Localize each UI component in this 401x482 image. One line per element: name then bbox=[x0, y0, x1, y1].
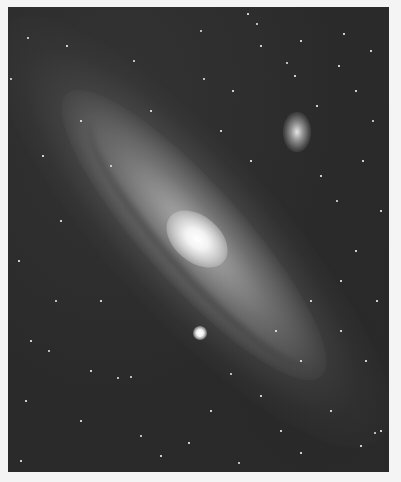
star bbox=[310, 300, 312, 302]
star bbox=[260, 395, 262, 397]
star bbox=[100, 300, 102, 302]
star bbox=[256, 23, 258, 25]
star bbox=[374, 432, 376, 434]
galaxy-photo bbox=[8, 7, 389, 472]
star bbox=[66, 45, 68, 47]
star bbox=[18, 260, 20, 262]
star bbox=[20, 460, 22, 462]
star bbox=[316, 105, 318, 107]
companion-galaxy-lower bbox=[193, 326, 207, 340]
star bbox=[48, 350, 50, 352]
star bbox=[203, 78, 205, 80]
star bbox=[117, 377, 119, 379]
star bbox=[300, 452, 302, 454]
star bbox=[230, 373, 232, 375]
star bbox=[372, 120, 374, 122]
star bbox=[80, 120, 82, 122]
star bbox=[343, 33, 345, 35]
star bbox=[238, 462, 240, 464]
star bbox=[90, 370, 92, 372]
star bbox=[380, 210, 382, 212]
companion-galaxy-upper bbox=[283, 112, 311, 152]
star bbox=[360, 445, 362, 447]
star bbox=[250, 160, 252, 162]
star bbox=[355, 250, 357, 252]
star bbox=[150, 110, 152, 112]
star bbox=[320, 175, 322, 177]
star bbox=[247, 13, 249, 15]
star bbox=[210, 410, 212, 412]
star bbox=[188, 442, 190, 444]
star bbox=[355, 90, 357, 92]
star bbox=[300, 360, 302, 362]
star bbox=[362, 160, 364, 162]
star bbox=[370, 50, 372, 52]
star bbox=[55, 300, 57, 302]
star bbox=[80, 420, 82, 422]
star bbox=[25, 400, 27, 402]
star bbox=[275, 330, 277, 332]
star bbox=[232, 90, 234, 92]
star bbox=[140, 435, 142, 437]
star bbox=[294, 75, 296, 77]
star bbox=[365, 360, 367, 362]
star bbox=[376, 300, 378, 302]
star bbox=[133, 60, 135, 62]
star bbox=[380, 430, 382, 432]
star bbox=[220, 130, 222, 132]
star bbox=[27, 37, 29, 39]
star bbox=[340, 330, 342, 332]
star bbox=[336, 200, 338, 202]
star bbox=[330, 410, 332, 412]
star bbox=[130, 376, 132, 378]
star bbox=[338, 65, 340, 67]
star bbox=[340, 280, 342, 282]
star bbox=[60, 220, 62, 222]
star bbox=[30, 340, 32, 342]
star bbox=[10, 78, 12, 80]
star bbox=[160, 455, 162, 457]
star bbox=[200, 30, 202, 32]
star bbox=[280, 430, 282, 432]
star bbox=[110, 165, 112, 167]
star bbox=[300, 40, 302, 42]
star bbox=[42, 155, 44, 157]
star bbox=[260, 45, 262, 47]
star bbox=[286, 62, 288, 64]
